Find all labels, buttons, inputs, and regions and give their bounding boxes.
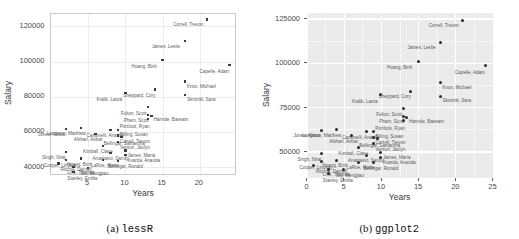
data-point bbox=[102, 145, 104, 147]
gridline-horizontal bbox=[307, 18, 493, 19]
data-point bbox=[357, 146, 360, 149]
y-axis-tick-mark bbox=[304, 62, 307, 63]
data-point bbox=[184, 80, 186, 82]
caption-prefix: (a) bbox=[107, 222, 119, 234]
x-axis-title: Years bbox=[50, 188, 236, 198]
gridline-vertical bbox=[163, 14, 164, 174]
y-axis-tick-label: 125000 bbox=[275, 14, 300, 23]
data-point-label: Afshari, Anbar bbox=[74, 138, 103, 143]
data-point bbox=[117, 134, 119, 136]
data-point-label: Knox, Michael bbox=[187, 85, 216, 90]
data-point-label: Fulton, Scott bbox=[376, 113, 402, 118]
x-axis-tick-mark bbox=[492, 178, 493, 181]
data-point-label: James, Leslie bbox=[407, 46, 435, 51]
data-point-label: Correll, Trevon bbox=[429, 24, 459, 29]
data-point-label: Portlock, Ryan bbox=[375, 127, 405, 132]
gridline-horizontal bbox=[307, 63, 493, 64]
y-axis-title: Salary bbox=[261, 82, 271, 106]
data-point bbox=[109, 152, 111, 154]
data-point-label: Kvarda, Ananda bbox=[383, 161, 416, 166]
data-point bbox=[335, 159, 338, 162]
data-point-label: Pham, Scott bbox=[379, 120, 404, 125]
gridline-vertical bbox=[418, 13, 419, 178]
data-point bbox=[484, 64, 487, 67]
x-axis-tick-label: 10 bbox=[369, 182, 393, 191]
gridline-vertical-minor bbox=[325, 13, 326, 178]
data-point bbox=[320, 152, 323, 155]
gridline-horizontal bbox=[51, 26, 235, 27]
data-point bbox=[150, 115, 152, 117]
x-axis-tick-label: 0 bbox=[295, 182, 319, 191]
gridline-vertical bbox=[200, 14, 201, 174]
gridline-vertical bbox=[493, 13, 494, 178]
panel-caption: (b) ggplot2 bbox=[260, 222, 519, 235]
panel-lessr: Salary Correll, TrevonJames, LeslieHoang… bbox=[0, 0, 260, 239]
data-point-label: Knox, Michael bbox=[442, 86, 471, 91]
data-point bbox=[80, 127, 82, 129]
data-point bbox=[402, 115, 405, 118]
data-point bbox=[87, 167, 89, 169]
data-point-label: Correll, Trevon bbox=[375, 141, 405, 146]
data-point bbox=[147, 106, 149, 108]
data-point-label: Billing, Susan bbox=[120, 133, 148, 138]
caption-prefix: (b) bbox=[359, 222, 372, 234]
x-axis-title: Years bbox=[307, 192, 493, 202]
data-point bbox=[124, 92, 126, 94]
data-point-label: Hamide, Bassam bbox=[409, 120, 444, 125]
data-point-label: Skrotzki, Sara bbox=[187, 98, 216, 103]
data-point-label: Kimball, Claire bbox=[339, 152, 369, 157]
data-point bbox=[365, 154, 368, 157]
data-point bbox=[365, 130, 368, 133]
y-axis-tick-mark bbox=[304, 151, 307, 152]
gridline-vertical bbox=[307, 13, 308, 178]
data-point bbox=[117, 141, 119, 143]
data-point bbox=[57, 162, 59, 164]
data-point-label: Skrotzki, Sara bbox=[442, 99, 471, 104]
data-point-label: Anastasio, Sandy bbox=[348, 159, 384, 164]
data-point bbox=[117, 160, 119, 162]
data-point-label: Hoang, Binh bbox=[132, 65, 157, 70]
data-point bbox=[372, 130, 375, 133]
data-point bbox=[124, 149, 126, 151]
gridline-vertical bbox=[455, 13, 456, 178]
x-axis-tick-label: 20 bbox=[443, 182, 467, 191]
data-point-label: Afshari, Anbar bbox=[329, 140, 358, 145]
data-point bbox=[184, 94, 186, 96]
data-point bbox=[65, 159, 67, 161]
data-point bbox=[184, 40, 186, 42]
y-axis-tick-label: 75000 bbox=[279, 103, 300, 112]
y-axis-tick-mark bbox=[304, 107, 307, 108]
data-point bbox=[65, 151, 67, 153]
y-axis-tick-label: 60000 bbox=[24, 126, 45, 135]
data-point bbox=[402, 107, 405, 110]
data-point bbox=[402, 119, 405, 122]
data-point-label: Jones, Alissa bbox=[293, 134, 320, 139]
data-point bbox=[80, 157, 82, 159]
gridline-horizontal-minor bbox=[307, 41, 493, 42]
data-point bbox=[147, 118, 149, 120]
plot-area-lessr: Correll, TrevonJames, LeslieHoang, BinhC… bbox=[50, 13, 236, 175]
x-axis-tick-mark bbox=[343, 178, 344, 181]
y-axis-tick-label: 80000 bbox=[24, 91, 45, 100]
data-point bbox=[228, 64, 230, 66]
gridline-vertical-minor bbox=[474, 13, 475, 178]
data-point-label: Kimball, Claire bbox=[83, 150, 113, 155]
data-point bbox=[154, 88, 156, 90]
data-point-label: Capelle, Adam bbox=[200, 70, 230, 75]
gridline-horizontal bbox=[307, 107, 493, 108]
gridline-vertical-minor bbox=[437, 13, 438, 178]
data-point bbox=[417, 60, 420, 63]
data-point bbox=[94, 133, 96, 135]
data-point-label: Singh, Niraj bbox=[42, 156, 66, 161]
x-axis-tick-label: 15 bbox=[150, 178, 174, 187]
data-point-label: Sheppard, Cory bbox=[123, 94, 155, 99]
panel-ggplot2: Salary Correll, TrevonJames, LeslieHoang… bbox=[260, 0, 519, 239]
data-point bbox=[320, 129, 323, 132]
data-point bbox=[372, 161, 375, 164]
data-point-label: Correll, Trevon bbox=[120, 140, 150, 145]
x-axis-tick-label: 20 bbox=[187, 178, 211, 187]
data-point-label: Kralik, Laura bbox=[96, 98, 122, 103]
x-axis-tick-label: 25 bbox=[481, 182, 505, 191]
y-axis-tick-label: 120000 bbox=[19, 21, 44, 30]
x-axis-tick-mark bbox=[418, 178, 419, 181]
